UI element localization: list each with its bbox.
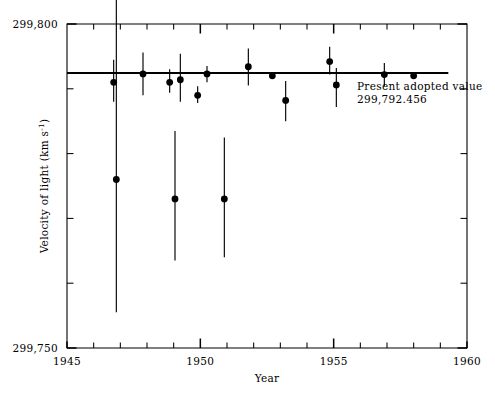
adopted-value-label-line1: Present adopted value bbox=[357, 80, 483, 92]
data-point-group bbox=[177, 54, 184, 102]
data-point-group bbox=[113, 0, 120, 312]
data-point-marker bbox=[282, 97, 289, 104]
data-point-group bbox=[269, 72, 276, 79]
data-point-group bbox=[204, 66, 211, 82]
data-point-marker bbox=[140, 70, 147, 77]
data-point-marker bbox=[177, 76, 184, 83]
data-point-marker bbox=[333, 82, 340, 89]
data-point-marker bbox=[113, 176, 120, 183]
data-point-group bbox=[282, 81, 289, 121]
y-tick-label: 299,750 bbox=[12, 342, 58, 354]
x-tick-label: 1960 bbox=[453, 355, 481, 367]
y-axis-title: Velocity of light (km s-1) bbox=[37, 119, 50, 255]
data-point-marker bbox=[245, 63, 252, 70]
data-point-group bbox=[140, 53, 147, 96]
x-tick-label: 1945 bbox=[53, 355, 81, 367]
data-point-marker bbox=[381, 71, 388, 78]
data-point-group bbox=[172, 131, 179, 261]
x-tick-label: 1955 bbox=[320, 355, 348, 367]
data-points bbox=[110, 0, 417, 312]
data-point-group bbox=[326, 47, 333, 75]
data-point-marker bbox=[221, 196, 228, 203]
data-point-group bbox=[194, 86, 201, 103]
x-axis-title: Year bbox=[254, 372, 280, 384]
data-point-group bbox=[245, 49, 252, 86]
data-point-group bbox=[410, 72, 417, 79]
x-tick-label: 1950 bbox=[186, 355, 214, 367]
data-point-marker bbox=[172, 196, 179, 203]
adopted-value-label-line2: 299,792.456 bbox=[357, 93, 427, 105]
data-point-group bbox=[333, 68, 340, 107]
data-point-marker bbox=[326, 58, 333, 65]
data-point-marker bbox=[269, 72, 276, 79]
data-point-marker bbox=[410, 72, 417, 79]
figure-container: Present adopted value299,792.456299,7502… bbox=[0, 0, 495, 405]
data-point-marker bbox=[194, 92, 201, 99]
data-point-marker bbox=[166, 79, 173, 86]
y-tick-label: 299,800 bbox=[12, 18, 58, 30]
data-point-group bbox=[221, 137, 228, 257]
data-point-marker bbox=[204, 70, 211, 77]
light-speed-scatter-chart: Present adopted value299,792.456299,7502… bbox=[0, 0, 495, 405]
